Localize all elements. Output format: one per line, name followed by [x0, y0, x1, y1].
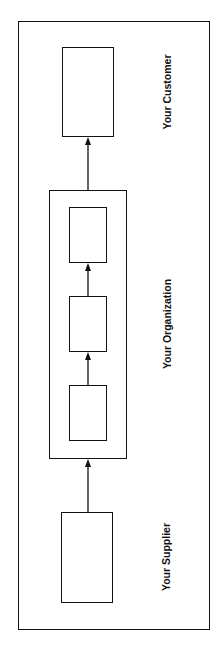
arrowhead-icon	[85, 352, 91, 360]
flow-arrows	[0, 0, 219, 658]
arrowhead-icon	[85, 263, 91, 271]
arrowhead-icon	[85, 459, 91, 467]
arrowhead-icon	[85, 137, 91, 145]
